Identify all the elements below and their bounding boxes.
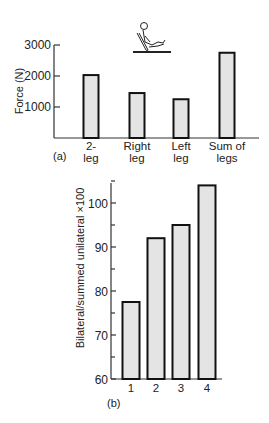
x-tick-label: 1 <box>128 382 134 394</box>
bar-right-leg <box>130 93 145 138</box>
x-tick-label: 4 <box>204 382 211 394</box>
bar-left-leg <box>174 99 189 138</box>
x-tick-label: legs <box>216 152 237 164</box>
bar-4 <box>199 185 216 379</box>
chart-b: 60708090100 1234 Bilateral/summed unilat… <box>74 181 222 409</box>
y-tick-label: 1000 <box>24 100 51 114</box>
figure-canvas: 100020003000 2-legRightlegLeftlegSum ofl… <box>0 0 269 423</box>
leg-press-figure-icon <box>133 23 171 53</box>
y-tick-label: 90 <box>95 241 109 255</box>
x-tick-label: Sum of <box>209 140 246 152</box>
panel-label-b: (b) <box>107 397 120 409</box>
x-tick-label: 2 <box>153 382 159 394</box>
y-tick-label: 2000 <box>24 69 51 83</box>
bar-3 <box>173 225 190 379</box>
x-tick-label: leg <box>83 152 98 164</box>
panel-label-a: (a) <box>53 150 66 162</box>
bar-sum-of-legs <box>220 53 235 138</box>
y-axis-title-b: Bilateral/summed unilateral ×100 <box>74 188 86 349</box>
y-tick-label: 70 <box>95 329 109 343</box>
x-tick-label: Left <box>171 140 191 152</box>
x-tick-label: leg <box>173 152 188 164</box>
bar-2 <box>148 238 165 379</box>
x-tick-label: 2- <box>86 140 96 152</box>
y-tick-label: 100 <box>88 197 108 211</box>
bar-2-leg <box>84 75 99 138</box>
x-tick-label: 3 <box>178 382 184 394</box>
y-axis-title-a: Force (N) <box>13 68 25 114</box>
chart-a: 100020003000 2-legRightlegLeftlegSum ofl… <box>13 23 259 165</box>
y-tick-label: 60 <box>95 373 109 387</box>
y-tick-label: 3000 <box>24 38 51 52</box>
bar-1 <box>123 302 140 379</box>
x-tick-label: leg <box>129 152 144 164</box>
x-tick-label: Right <box>124 140 152 152</box>
y-tick-label: 80 <box>95 285 109 299</box>
